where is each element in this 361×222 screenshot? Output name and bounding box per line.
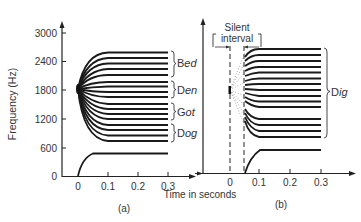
y-tick-0: 0 (51, 171, 57, 182)
panel-b: 0 0.1 0.2 0.3 Silent interval (195, 18, 356, 210)
y-tick-600: 600 (40, 143, 57, 154)
x-axis-title: Time in seconds (164, 189, 236, 200)
dig-bracket (324, 48, 330, 138)
label-dig: Dig (331, 86, 348, 98)
panel-a-brackets (171, 51, 176, 142)
panel-a: 3000 2400 1800 1200 600 0 0 0.1 0.2 0.3 (35, 21, 198, 214)
y-tick-3000: 3000 (35, 28, 58, 39)
silent-arrow-right-icon (244, 46, 248, 49)
x-tick-0.1-b: 0.1 (252, 177, 266, 188)
panel-b-f1 (245, 150, 321, 173)
panel-b-x-ticks (259, 169, 321, 173)
panel-b-f2-transitions (245, 49, 321, 137)
x-tick-0.2-a: 0.2 (131, 181, 145, 192)
panel-a-caption: (a) (118, 203, 130, 214)
silent-label-line2: interval (221, 33, 253, 44)
panel-b-caption: (b) (275, 199, 287, 210)
x-tick-0.2-b: 0.2 (283, 177, 297, 188)
panel-a-x-ticks (108, 172, 168, 176)
x-tick-0-b: 0 (227, 177, 233, 188)
y-tick-1800: 1800 (35, 85, 58, 96)
silent-arrow-left-icon (226, 46, 230, 49)
x-tick-0.3-b: 0.3 (314, 177, 328, 188)
panel-a-y-axis-arrow-icon (60, 21, 65, 28)
panel-b-y-axis-arrow-icon (201, 18, 206, 25)
y-tick-2400: 2400 (35, 56, 58, 67)
panel-b-left-arrow-icon (197, 172, 203, 176)
label-den: Den (177, 84, 197, 96)
x-tick-0.1-a: 0.1 (101, 181, 115, 192)
panel-b-dotted-projections (230, 52, 245, 126)
panel-a-f2-transitions (78, 53, 168, 142)
y-tick-1200: 1200 (35, 114, 58, 125)
speech-formant-diagram: Frequency (Hz) 3000 2400 1800 1200 600 0… (0, 0, 361, 222)
y-axis-title: Frequency (Hz) (6, 68, 18, 140)
label-dog: Dog (177, 127, 198, 139)
panel-b-locus-mark (229, 86, 232, 94)
panel-b-x-axis-arrow-icon (349, 171, 356, 176)
silent-label-line1: Silent (224, 22, 249, 33)
panel-a-x-axis-arrow-icon (189, 174, 196, 179)
x-tick-0-a: 0 (75, 181, 81, 192)
panel-a-locus (76, 84, 80, 94)
panel-a-f1 (78, 154, 168, 177)
label-bed: Bed (177, 57, 197, 69)
label-got: Got (177, 106, 196, 118)
